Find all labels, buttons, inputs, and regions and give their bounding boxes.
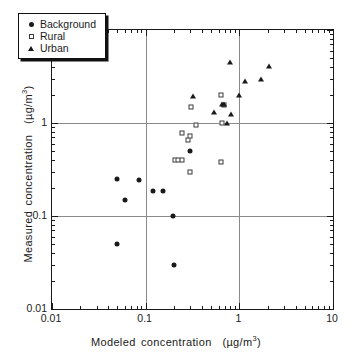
y-axis-tick <box>52 151 55 152</box>
data-point-urban <box>221 101 227 106</box>
marker-open-square <box>188 169 193 174</box>
x-axis-tick <box>202 30 203 33</box>
legend-item: Rural <box>24 30 96 42</box>
x-axis-tick <box>296 306 297 309</box>
x-axis-tick <box>108 30 109 33</box>
x-axis-tick <box>125 306 126 309</box>
x-axis-tick <box>131 306 132 309</box>
y-axis-tick <box>52 144 55 145</box>
x-axis-tick <box>190 306 191 309</box>
data-point-rural <box>180 130 185 135</box>
marker-filled-circle <box>115 176 120 181</box>
plot-canvas <box>52 30 333 309</box>
x-axis-tick <box>117 30 118 33</box>
x-axis-units: (µg/m3) <box>217 336 261 348</box>
y-axis-tick <box>330 281 333 282</box>
y-axis-tick <box>52 237 55 238</box>
y-axis-tick <box>330 265 333 266</box>
marker-filled-triangle <box>242 79 248 84</box>
legend-item: Background <box>24 18 96 30</box>
data-point-urban <box>228 111 234 116</box>
marker-open-square <box>194 123 199 128</box>
y-axis-tick <box>330 51 333 52</box>
x-axis-tick <box>174 30 175 33</box>
data-point-urban <box>242 79 248 84</box>
x-axis-tick <box>235 306 236 309</box>
data-point-urban <box>236 93 242 98</box>
x-axis-tick <box>97 306 98 309</box>
x-axis-tick <box>235 30 236 33</box>
y-axis-tick <box>327 123 333 124</box>
data-point-rural <box>180 157 185 162</box>
y-axis-tick <box>330 253 333 254</box>
marker-filled-triangle <box>227 60 233 65</box>
x-axis-tick <box>312 30 313 33</box>
marker-filled-triangle <box>28 46 34 51</box>
x-axis-tick <box>230 306 231 309</box>
x-axis-tick <box>117 306 118 309</box>
y-axis-tick <box>52 265 55 266</box>
marker-filled-circle <box>188 148 193 153</box>
y-axis-tick <box>52 220 55 221</box>
x-axis-tick <box>141 30 142 33</box>
y-axis-tick-label: 0.01 <box>27 303 47 314</box>
x-axis-tick <box>174 306 175 309</box>
data-point-urban <box>227 60 233 65</box>
legend-label: Rural <box>40 30 65 42</box>
marker-filled-triangle <box>228 111 234 116</box>
y-axis-title-text: Measured concentration <box>22 135 34 263</box>
y-axis-tick <box>52 281 55 282</box>
y-axis-tick <box>327 216 333 217</box>
y-axis-tick <box>330 39 333 40</box>
legend-label: Urban <box>40 42 69 54</box>
gridline-horizontal <box>52 216 333 217</box>
x-axis-tick <box>108 306 109 309</box>
y-axis-tick <box>330 220 333 221</box>
y-axis-tick-label: 0.1 <box>32 210 47 221</box>
y-axis-tick <box>330 132 333 133</box>
y-axis-tick <box>330 225 333 226</box>
data-point-rural <box>219 160 224 165</box>
marker-open-square <box>219 93 224 98</box>
legend: BackgroundRuralUrban <box>18 13 106 59</box>
data-point-background <box>170 214 175 219</box>
y-axis-tick <box>330 127 333 128</box>
y-axis-tick <box>52 137 55 138</box>
marker-filled-circle <box>122 197 127 202</box>
marker-filled-circle <box>29 22 34 27</box>
y-axis-tick <box>330 244 333 245</box>
x-axis-tick-label: 0.01 <box>41 313 61 324</box>
legend-item: Urban <box>24 42 96 54</box>
plot-area <box>51 29 334 310</box>
x-axis-tick-label: 0.1 <box>137 313 152 324</box>
y-axis-tick <box>330 144 333 145</box>
y-axis-tick <box>330 230 333 231</box>
marker-open-square <box>219 160 224 165</box>
x-axis-tick <box>268 306 269 309</box>
marker-filled-circle <box>151 189 156 194</box>
x-axis-tick <box>141 306 142 309</box>
marker-filled-circle <box>137 177 142 182</box>
x-axis-tick <box>219 306 220 309</box>
x-axis-tick <box>225 306 226 309</box>
x-axis-tick <box>318 306 319 309</box>
x-axis-tick <box>324 306 325 309</box>
y-axis-tick <box>52 225 55 226</box>
marker-filled-circle <box>171 262 176 267</box>
legend-marker <box>24 22 38 27</box>
marker-filled-triangle <box>236 93 242 98</box>
marker-open-square <box>189 104 194 109</box>
x-axis-tick <box>219 30 220 33</box>
data-point-background <box>122 197 127 202</box>
marker-filled-circle <box>115 241 120 246</box>
y-axis-tick <box>330 34 333 35</box>
legend-label: Background <box>40 18 96 30</box>
y-axis-tick <box>52 95 55 96</box>
marker-filled-circle <box>161 189 166 194</box>
x-axis-tick <box>324 30 325 33</box>
x-axis-tick-label: 10 <box>326 313 338 324</box>
y-axis-tick <box>330 151 333 152</box>
y-axis-tick <box>52 123 58 124</box>
data-point-background <box>171 262 176 267</box>
x-axis-tick <box>137 30 138 33</box>
